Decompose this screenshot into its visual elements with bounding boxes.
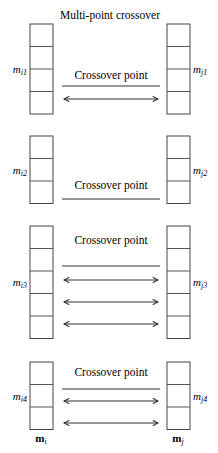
segment-label-right-sub: j3: [200, 281, 207, 290]
crossover-point-label: Crossover point: [74, 366, 148, 379]
left-segment-outline: [30, 226, 53, 339]
crossover-group-4: mi4mj4Crossover point: [13, 362, 207, 430]
left-chromosome-segment: [30, 136, 53, 204]
multi-point-crossover-diagram: Multi-point crossover mi1mj1Crossover po…: [0, 0, 218, 453]
crossover-point-label: Crossover point: [74, 234, 148, 247]
crossover-group-3: mi3mj3Crossover point: [13, 226, 207, 339]
segment-label-left: mi2: [13, 164, 27, 178]
svg-text:mj: mj: [172, 432, 184, 446]
parent-label-right: mj: [172, 432, 184, 446]
segment-label-left-sub: i4: [21, 395, 27, 404]
segment-label-right-base: m: [193, 63, 201, 75]
crossover-group-1: mi1mj1Crossover point: [13, 24, 207, 114]
segment-label-left-base: m: [13, 63, 21, 75]
groups-layer: mi1mj1Crossover pointmi2mj2Crossover poi…: [13, 24, 207, 430]
segment-label-right: mj3: [193, 276, 207, 290]
right-chromosome-segment: [167, 362, 190, 430]
right-segment-outline: [167, 226, 190, 339]
segment-label-right: mj4: [193, 390, 207, 404]
segment-label-right-sub: j1: [200, 68, 207, 77]
parent-right-base: m: [172, 432, 181, 444]
segment-label-left: mi3: [13, 276, 27, 290]
segment-label-right-base: m: [193, 390, 201, 402]
segment-label-right-base: m: [193, 276, 201, 288]
segment-label-right: mj2: [193, 164, 207, 178]
segment-label-left: mi4: [13, 390, 27, 404]
segment-label-left-sub: i3: [21, 281, 27, 290]
parent-right-sub: j: [180, 437, 184, 446]
right-chromosome-segment: [167, 136, 190, 204]
crossover-point-label: Crossover point: [74, 69, 148, 82]
left-chromosome-segment: [30, 362, 53, 430]
segment-label-right-sub: j2: [200, 169, 207, 178]
left-chromosome-segment: [30, 226, 53, 339]
right-segment-outline: [167, 362, 190, 430]
segment-label-left: mi1: [13, 63, 27, 77]
crossover-point-label: Crossover point: [74, 179, 148, 192]
segment-label-left-base: m: [13, 164, 21, 176]
diagram-title: Multi-point crossover: [60, 9, 160, 22]
right-segment-outline: [167, 136, 190, 204]
segment-label-left-base: m: [13, 276, 21, 288]
parent-label-left: mi: [35, 432, 46, 446]
right-chromosome-segment: [167, 226, 190, 339]
right-chromosome-segment: [167, 24, 190, 114]
segment-label-left-base: m: [13, 390, 21, 402]
left-segment-outline: [30, 362, 53, 430]
parent-left-base: m: [35, 432, 44, 444]
segment-label-right-base: m: [193, 164, 201, 176]
left-segment-outline: [30, 136, 53, 204]
segment-label-left-sub: i1: [21, 68, 27, 77]
crossover-group-2: mi2mj2Crossover point: [13, 136, 207, 204]
segment-label-left-sub: i2: [21, 169, 27, 178]
parent-left-sub: i: [44, 437, 46, 446]
left-chromosome-segment: [30, 24, 53, 114]
svg-text:mi: mi: [35, 432, 46, 446]
segment-label-right: mj1: [193, 63, 207, 77]
segment-label-right-sub: j4: [200, 395, 207, 404]
